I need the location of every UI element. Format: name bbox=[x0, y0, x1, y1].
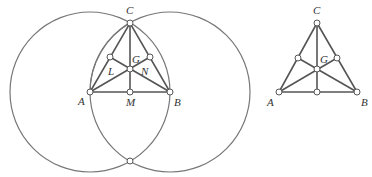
point-l bbox=[107, 54, 113, 60]
label-m: M bbox=[125, 96, 136, 108]
point-mid-bc-right bbox=[334, 55, 340, 61]
label-a: A bbox=[77, 95, 85, 107]
label-a-right: A bbox=[266, 96, 274, 108]
triangle-abc-right bbox=[279, 23, 357, 92]
point-b bbox=[167, 89, 173, 95]
point-m bbox=[127, 89, 133, 95]
point-g-right bbox=[314, 66, 320, 72]
label-l: L bbox=[107, 65, 114, 77]
point-a bbox=[87, 89, 93, 95]
point-n bbox=[147, 54, 153, 60]
point-mid-ac-right bbox=[295, 55, 301, 61]
label-g: G bbox=[132, 53, 140, 65]
label-g-right: G bbox=[320, 53, 328, 65]
geometry-diagram: C A B M G L N C A B G bbox=[0, 0, 372, 177]
label-b: B bbox=[174, 96, 181, 108]
point-b-right bbox=[354, 89, 360, 95]
label-c-right: C bbox=[313, 4, 321, 16]
point-lower-intersection bbox=[127, 158, 133, 164]
label-b-right: B bbox=[361, 96, 368, 108]
point-a-right bbox=[276, 89, 282, 95]
point-c bbox=[127, 20, 133, 26]
label-c: C bbox=[126, 4, 134, 16]
point-c-right bbox=[314, 20, 320, 26]
point-mid-ab-right bbox=[314, 89, 320, 95]
point-g bbox=[127, 66, 133, 72]
label-n: N bbox=[140, 65, 149, 77]
